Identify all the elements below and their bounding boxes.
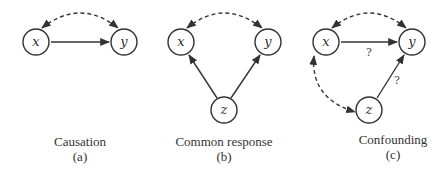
- caption-title: Confounding: [359, 132, 428, 147]
- caption-title: Causation: [54, 134, 106, 149]
- caption-title: Common response: [175, 134, 272, 149]
- node-y: y: [111, 29, 137, 55]
- node-z-label: z: [220, 102, 228, 117]
- panel-causation: x y Causation (a): [23, 13, 137, 164]
- node-x-label: x: [177, 34, 185, 49]
- node-z: z: [356, 97, 382, 123]
- node-y-label: y: [119, 34, 128, 49]
- causation-diagram: x y Causation (a) x y z Common response …: [0, 0, 442, 181]
- caption-tag: (a): [73, 149, 87, 164]
- node-x: x: [23, 29, 49, 55]
- edge-label-x-to-y: ?: [366, 46, 372, 59]
- node-z-label: z: [365, 102, 373, 117]
- caption-tag: (c): [386, 147, 400, 162]
- node-x: x: [168, 29, 194, 55]
- node-x-label: x: [32, 34, 40, 49]
- arrow-z-to-x: [189, 55, 217, 98]
- node-y: y: [255, 29, 281, 55]
- panel-common-response: x y z Common response (b): [168, 13, 281, 164]
- edge-label-z-to-y: ?: [394, 74, 400, 87]
- node-x: x: [313, 29, 339, 55]
- node-z: z: [211, 97, 237, 123]
- dashed-association-arc: [187, 13, 262, 28]
- caption-tag: (b): [216, 149, 231, 164]
- dashed-association-arc-xz: [314, 56, 355, 112]
- arrow-z-to-y: [231, 55, 260, 98]
- node-y-label: y: [263, 34, 272, 49]
- dashed-association-arc: [42, 13, 118, 28]
- node-y-label: y: [407, 34, 416, 49]
- node-x-label: x: [322, 34, 330, 49]
- dashed-association-arc-xy: [332, 13, 406, 28]
- node-y: y: [399, 29, 425, 55]
- panel-confounding: ? ? x y z Confounding (c): [313, 13, 428, 162]
